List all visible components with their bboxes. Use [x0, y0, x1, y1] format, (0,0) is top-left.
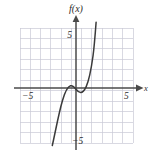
y-axis-positive-tick-label: 5 [67, 30, 72, 40]
plot-background [0, 0, 156, 157]
x-axis-negative-tick-label: −5 [22, 91, 33, 101]
graph-figure: −5 5 5 −5 f(x) x [0, 0, 156, 157]
cartesian-plot: −5 5 5 −5 f(x) x [0, 0, 156, 157]
y-axis-negative-tick-label: −5 [72, 136, 83, 146]
x-axis-positive-tick-label: 5 [124, 91, 129, 101]
x-axis-name-label: x [143, 83, 148, 93]
function-name-label: f(x) [69, 3, 84, 15]
